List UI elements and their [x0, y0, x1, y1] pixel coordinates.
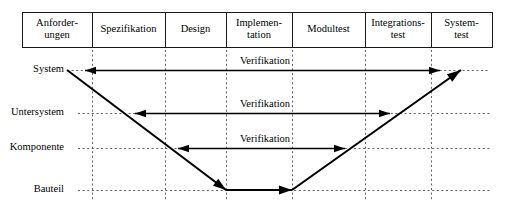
phase-table: Anforder-ungenSpezifikationDesignImpleme…	[23, 13, 493, 48]
vmodel-canvas: Anforder-ungenSpezifikationDesignImpleme…	[0, 0, 514, 207]
verif-untersystem-arrowhead-right	[379, 110, 390, 118]
phase-label-integrationstest: Integrations-	[371, 17, 425, 28]
level-label-system: System	[33, 63, 64, 74]
v-base-arrowhead	[279, 186, 292, 195]
phase-label-systemtest: System-	[444, 17, 479, 28]
vmodel-diagram: Anforder-ungenSpezifikationDesignImpleme…	[0, 0, 514, 207]
phase-label-systemtest: test	[454, 29, 469, 40]
phase-label-implementation: tation	[247, 29, 272, 40]
grid-layer	[67, 50, 490, 200]
phase-label-modultest: Modultest	[307, 23, 350, 34]
phase-label-implementation: Implemen-	[236, 17, 283, 28]
phase-label-integrationstest: test	[391, 29, 406, 40]
verif-untersystem-arrowhead-left	[135, 110, 146, 118]
level-label-komponente: Komponente	[10, 141, 65, 152]
level-label-layer: SystemUntersystemKomponenteBauteil	[10, 63, 65, 194]
level-label-bauteil: Bauteil	[34, 183, 64, 194]
verif-komponente-label: Verifikation	[240, 133, 291, 144]
verif-system-arrowhead-right	[429, 67, 440, 75]
verif-system-arrowhead-left	[85, 67, 96, 75]
verif-system-label: Verifikation	[240, 55, 291, 66]
verif-untersystem-label: Verifikation	[240, 98, 291, 109]
verification-arrow-layer: VerifikationVerifikationVerifikation	[85, 55, 440, 152]
v-ascending-arrowhead	[447, 70, 461, 82]
phase-label-design: Design	[181, 23, 211, 34]
verif-komponente-arrowhead-right	[334, 145, 345, 153]
verif-komponente-arrowhead-left	[178, 145, 189, 153]
phase-label-anforderungen: ungen	[44, 29, 70, 40]
v-descending-line	[67, 70, 226, 190]
v-ascending-line	[292, 70, 461, 190]
phase-label-spezifikation: Spezifikation	[101, 23, 158, 34]
level-label-untersystem: Untersystem	[11, 106, 64, 117]
phase-label-anforderungen: Anforder-	[36, 17, 78, 28]
